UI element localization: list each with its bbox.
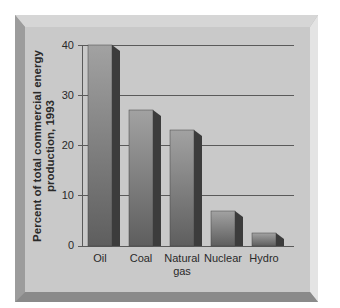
x-label-coal: Coal [119, 252, 163, 265]
y-tick-10: 10 [54, 189, 74, 201]
y-tick-0: 0 [54, 239, 74, 251]
bar-oil [88, 45, 120, 246]
bar-natural-gas [170, 130, 202, 246]
x-label-hydro: Hydro [242, 252, 286, 265]
bar-coal [129, 110, 161, 246]
x-label-natural-gas: Natural gas [160, 252, 204, 278]
y-tick-20: 20 [54, 139, 74, 151]
y-tick-30: 30 [54, 89, 74, 101]
bar-hydro [252, 233, 284, 246]
x-label-nuclear: Nuclear [201, 252, 245, 265]
bar-nuclear [211, 211, 243, 246]
x-label-oil: Oil [78, 252, 122, 265]
y-tick-40: 40 [54, 39, 74, 51]
